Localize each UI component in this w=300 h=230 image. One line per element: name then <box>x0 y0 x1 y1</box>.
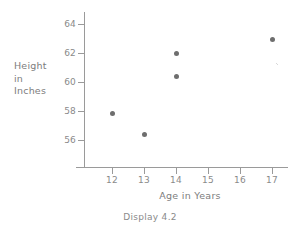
x-tick-label: 15 <box>193 176 223 185</box>
y-axis-label-line-2: in <box>14 73 76 86</box>
x-tick-label: 12 <box>97 176 127 185</box>
y-tick-label: 58 <box>36 107 76 116</box>
data-point <box>142 132 147 137</box>
scan-speck <box>277 64 278 65</box>
y-axis-label-line-3: Inches <box>14 85 76 98</box>
y-tick-mark <box>78 111 84 112</box>
x-tick-label: 17 <box>257 176 287 185</box>
y-tick-mark <box>78 82 84 83</box>
y-tick-mark <box>78 24 84 25</box>
y-tick-mark <box>78 140 84 141</box>
x-tick-label: 13 <box>129 176 159 185</box>
data-point <box>174 51 179 56</box>
x-tick-mark <box>272 168 273 174</box>
data-point <box>270 37 275 42</box>
scatter-plot-figure: 5658606264 121314151617 Height in Inches… <box>0 0 300 230</box>
figure-caption: Display 4.2 <box>0 212 300 222</box>
y-tick-label: 56 <box>36 136 76 145</box>
x-axis-label: Age in Years <box>100 190 280 201</box>
y-axis-line <box>84 12 85 168</box>
x-tick-mark <box>112 168 113 174</box>
y-axis-label-line-1: Height <box>14 60 76 73</box>
x-tick-label: 14 <box>161 176 191 185</box>
x-tick-label: 16 <box>225 176 255 185</box>
x-tick-mark <box>176 168 177 174</box>
y-tick-label: 62 <box>36 49 76 58</box>
y-axis-label: Height in Inches <box>14 60 76 98</box>
y-tick-label: 64 <box>36 20 76 29</box>
x-tick-mark <box>144 168 145 174</box>
data-point <box>174 74 179 79</box>
x-tick-mark <box>240 168 241 174</box>
x-tick-mark <box>208 168 209 174</box>
x-axis-line <box>76 167 288 168</box>
data-point <box>110 111 115 116</box>
y-tick-mark <box>78 53 84 54</box>
